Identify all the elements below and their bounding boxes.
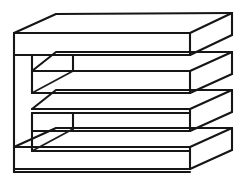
impossible-figure-svg <box>0 0 248 188</box>
impossible-figure-canvas: Impossible figure line drawing Black ink… <box>0 0 248 188</box>
